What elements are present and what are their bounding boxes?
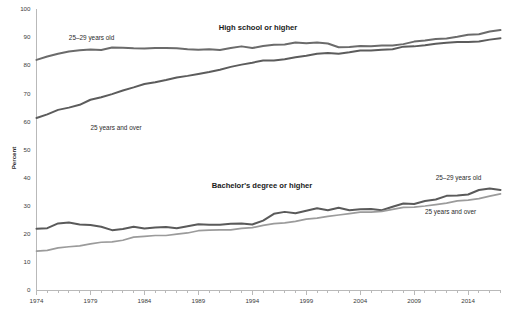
- annotation-ba_25_29: 25–29 years old: [436, 174, 482, 182]
- y-tick-label: 30: [24, 202, 31, 209]
- x-tick-label: 1974: [30, 297, 44, 304]
- education-attainment-chart: 0102030405060708090100 19741979198419891…: [0, 0, 516, 325]
- y-tick-label: 0: [27, 286, 31, 293]
- annotation-hs_25_29: 25–29 years old: [69, 34, 115, 42]
- y-tick-label: 40: [24, 174, 31, 181]
- x-tick-label: 2009: [407, 297, 421, 304]
- y-tick-label: 90: [24, 33, 31, 40]
- y-axis-tick-labels: 0102030405060708090100: [20, 5, 31, 293]
- y-axis-title: Percent: [10, 147, 17, 170]
- y-tick-label: 50: [24, 146, 31, 153]
- chart-svg: 0102030405060708090100 19741979198419891…: [0, 0, 516, 325]
- series-line-ba_25_over: [37, 194, 501, 251]
- y-tick-label: 80: [24, 61, 31, 68]
- y-tick-label: 60: [24, 118, 31, 125]
- annotation-hs_25_over: 25 years and over: [90, 124, 142, 132]
- x-tick-label: 1984: [138, 297, 152, 304]
- y-tick-label: 10: [24, 258, 31, 265]
- x-axis-tick-labels: 197419791984198919941999200420092014: [30, 297, 476, 304]
- x-tick-label: 1989: [191, 297, 205, 304]
- y-tick-label: 70: [24, 90, 31, 97]
- x-tick-label: 2014: [461, 297, 475, 304]
- x-tick-label: 2004: [353, 297, 367, 304]
- annotation-ba_25_over: 25 years and over: [425, 208, 477, 216]
- panel-title-high-school: High school or higher: [219, 23, 298, 32]
- panel-title-bachelors: Bachelor's degree or higher: [212, 181, 313, 190]
- x-tick-label: 1979: [84, 297, 98, 304]
- y-tick-label: 20: [24, 230, 31, 237]
- series-lines: [37, 30, 501, 251]
- x-tick-label: 1994: [245, 297, 259, 304]
- y-tick-label: 100: [20, 5, 31, 12]
- x-tick-label: 1999: [299, 297, 313, 304]
- axes: [37, 9, 501, 295]
- series-line-hs_25_over: [37, 38, 501, 118]
